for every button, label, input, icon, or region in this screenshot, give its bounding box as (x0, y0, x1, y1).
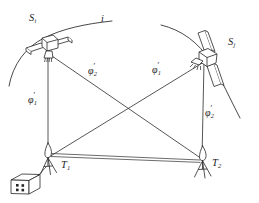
station-left-label-sub: 1 (67, 164, 70, 171)
satellite-left-icon (26, 35, 72, 62)
ground-control-building-icon (11, 167, 47, 195)
figure-canvas (0, 0, 259, 203)
angle-diagonal-left-sub: 2 (94, 71, 97, 78)
station-left-label: T1 (61, 160, 70, 171)
angle-right-vertical-label: φ′2 (205, 108, 211, 118)
angle-diagonal-left-glyph: φ′2 (88, 66, 94, 76)
station-left-icon (41, 143, 57, 175)
station-right-label: T2 (212, 158, 221, 169)
station-left-head (45, 143, 52, 158)
angle-left-vertical-glyph: φ′1 (28, 95, 34, 105)
satellite-right-label-sub: j (233, 41, 235, 48)
building-front (11, 180, 29, 194)
satellite-left-label: Si (29, 13, 36, 24)
angle-left-vertical-label: φ′1 (28, 95, 34, 105)
ground-baseline-lower-edge (51, 157, 200, 163)
satellite-left-body (42, 35, 58, 51)
sight-line-diagonal-right-sat (49, 62, 204, 157)
station-right-label-base: T (212, 157, 218, 168)
building-to-station-cable (38, 167, 47, 177)
ground-baseline-upper-edge (51, 154, 200, 161)
angle-right-vertical-glyph: φ′2 (205, 108, 211, 118)
orbit-track-label-base: i (101, 13, 104, 24)
angle-diagonal-right-label: φ′1 (152, 65, 158, 75)
sight-line-right-vertical (202, 62, 204, 159)
satellite-left-label-sub: i (34, 17, 36, 24)
station-right-head (200, 146, 207, 161)
angle-diagonal-left-label: φ′2 (88, 66, 94, 76)
satellite-geodesy-figure: Si Sj i T1 T2 φ′1 φ′2 φ′2 φ′1 (0, 0, 259, 203)
angle-diagonal-right-glyph: φ′1 (152, 65, 158, 75)
satellite-right-label: Sj (228, 37, 235, 48)
orbit-track-label: i (101, 14, 104, 24)
ground-baseline-group (51, 154, 200, 163)
satellite-right-icon (190, 31, 224, 87)
angle-left-vertical-sub: 1 (34, 100, 37, 107)
angle-right-vertical-sub: 2 (211, 113, 214, 120)
station-right-brace (199, 169, 207, 170)
station-right-label-sub: 2 (218, 162, 221, 169)
angle-diagonal-right-sub: 1 (158, 70, 161, 77)
sight-lines-group (48, 54, 204, 159)
station-left-label-base: T (61, 159, 67, 170)
satellite-left-panel-east-edge (68, 37, 72, 43)
satellite-left-antenna (44, 51, 53, 58)
station-left-brace (44, 166, 52, 167)
